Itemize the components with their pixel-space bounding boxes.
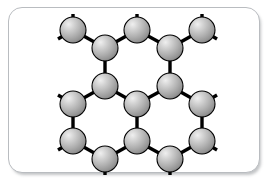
atom-f2 [157,146,183,172]
lattice-svg: Honeycomb hexagonal lattice Two-dimensio… [0,0,274,188]
atom-sphere [124,17,150,43]
atom-sphere [60,128,86,154]
atom-a1 [60,17,86,43]
atom-sphere [189,128,215,154]
atom-sphere [92,35,118,61]
atom-sphere [60,91,86,117]
atom-b2 [157,35,183,61]
atom-d2 [124,91,150,117]
atom-f1 [92,146,118,172]
lattice-figure: Honeycomb hexagonal lattice Two-dimensio… [0,0,274,188]
atom-c2 [157,73,183,99]
atom-layer [60,17,215,172]
atom-sphere [189,91,215,117]
atom-sphere [124,91,150,117]
atom-sphere [92,146,118,172]
atom-e1 [60,128,86,154]
atom-d3 [189,91,215,117]
atom-sphere [157,146,183,172]
atom-sphere [157,35,183,61]
atom-c1 [92,73,118,99]
atom-e2 [124,128,150,154]
screenshot-root: Honeycomb hexagonal lattice Two-dimensio… [0,0,274,188]
atom-sphere [92,73,118,99]
atom-sphere [124,128,150,154]
atom-d1 [60,91,86,117]
atom-a2 [124,17,150,43]
atom-sphere [157,73,183,99]
atom-e3 [189,128,215,154]
atom-sphere [60,17,86,43]
atom-sphere [189,17,215,43]
atom-b1 [92,35,118,61]
atom-a3 [189,17,215,43]
